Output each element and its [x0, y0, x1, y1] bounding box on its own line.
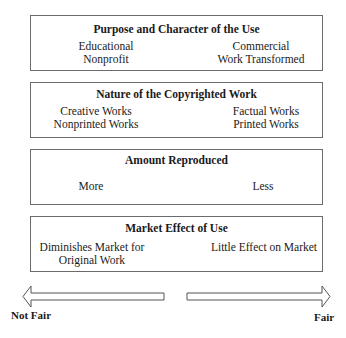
factor-right-item: Work Transformed — [211, 53, 311, 66]
factor-title: Market Effect of Use — [31, 222, 322, 234]
factor-right-item: Less — [243, 180, 283, 193]
factor-left-item: Nonprinted Works — [46, 118, 146, 131]
factor-left-column: Diminishes Market for Original Work — [37, 241, 147, 267]
factor-left-item: Diminishes Market for — [37, 241, 147, 254]
factor-nature-box: Nature of the Copyrighted Work Creative … — [30, 82, 323, 138]
factor-right-column: Little Effect on Market — [209, 241, 319, 254]
factor-right-item: Printed Works — [226, 118, 306, 131]
factor-title: Purpose and Character of the Use — [31, 23, 322, 35]
factor-left-item: Original Work — [37, 254, 147, 267]
fairness-scale-arrows — [0, 282, 346, 312]
fair-label: Fair — [314, 311, 334, 323]
factor-left-item: Creative Works — [46, 105, 146, 118]
factor-title: Nature of the Copyrighted Work — [31, 88, 322, 100]
factor-left-item: More — [71, 180, 111, 193]
factor-market-box: Market Effect of Use Diminishes Market f… — [30, 216, 323, 272]
factor-right-item: Commercial — [211, 40, 311, 53]
factor-right-item: Factual Works — [226, 105, 306, 118]
factor-left-item: Educational — [61, 40, 151, 53]
factor-right-column: Commercial Work Transformed — [211, 40, 311, 66]
factor-left-column: Creative Works Nonprinted Works — [46, 105, 146, 131]
factor-amount-box: Amount Reproduced More Less — [30, 149, 323, 205]
factor-title: Amount Reproduced — [31, 154, 322, 166]
factor-right-column: Factual Works Printed Works — [226, 105, 306, 131]
left-arrow-icon — [23, 286, 164, 307]
factor-left-item: Nonprofit — [61, 53, 151, 66]
factor-left-column: Educational Nonprofit — [61, 40, 151, 66]
factor-purpose-box: Purpose and Character of the Use Educati… — [30, 15, 323, 71]
factor-right-column: Less — [243, 180, 283, 193]
factor-left-column: More — [71, 180, 111, 193]
factor-right-item: Little Effect on Market — [209, 241, 319, 254]
right-arrow-icon — [187, 286, 330, 307]
not-fair-label: Not Fair — [11, 309, 51, 321]
